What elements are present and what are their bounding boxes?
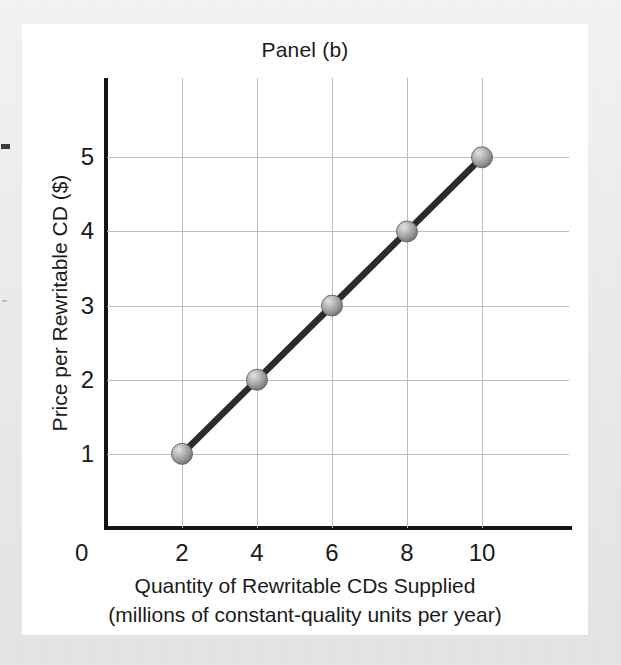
x-tick-label: 4 xyxy=(250,539,263,567)
x-axis-line xyxy=(104,526,572,530)
x-tick-label: 10 xyxy=(469,539,496,567)
gridline-horizontal xyxy=(107,380,569,381)
x-tick-label: 8 xyxy=(400,539,413,567)
x-tick-label: 2 xyxy=(175,539,188,567)
gridline-horizontal xyxy=(107,157,569,158)
scan-artifact-speck-2 xyxy=(2,300,7,302)
y-tick-label: 3 xyxy=(81,292,94,320)
gridline-vertical xyxy=(482,78,483,528)
y-tick-label: 4 xyxy=(81,217,94,245)
y-tick-label: 1 xyxy=(81,440,94,468)
gridline-horizontal xyxy=(107,454,569,455)
scan-artifact-speck xyxy=(1,144,10,149)
supply-curve-series xyxy=(87,58,589,548)
gridline-vertical xyxy=(182,78,183,528)
y-axis-line xyxy=(104,78,108,530)
y-tick-label: 5 xyxy=(81,143,94,171)
plot-area: 123450246810 xyxy=(107,78,569,528)
x-tick-label-origin: 0 xyxy=(75,539,88,567)
chart-title: Panel (b) xyxy=(22,38,588,62)
y-axis-label: Price per Rewritable CD ($) xyxy=(48,78,74,528)
gridline-vertical xyxy=(332,78,333,528)
x-axis-label: Quantity of Rewritable CDs Supplied (mil… xyxy=(22,571,588,629)
gridline-vertical xyxy=(257,78,258,528)
gridline-horizontal xyxy=(107,306,569,307)
x-axis-label-line2: (millions of constant-quality units per … xyxy=(22,600,588,629)
figure-page: Panel (b) Price per Rewritable CD ($) 12… xyxy=(0,0,621,665)
x-tick-label: 6 xyxy=(325,539,338,567)
y-tick-label: 2 xyxy=(81,366,94,394)
gridline-horizontal xyxy=(107,231,569,232)
figure-card: Panel (b) Price per Rewritable CD ($) 12… xyxy=(22,24,588,635)
gridline-vertical xyxy=(407,78,408,528)
x-axis-label-line1: Quantity of Rewritable CDs Supplied xyxy=(22,571,588,600)
